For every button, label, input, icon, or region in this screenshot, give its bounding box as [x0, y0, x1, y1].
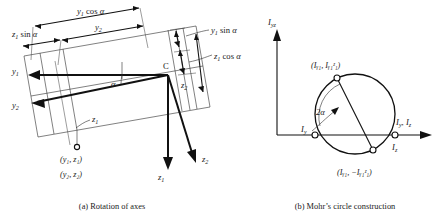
dim-label-z2: z2: [180, 80, 187, 91]
caption-panel-b: (b) Mohr’s circle construction: [295, 202, 396, 211]
mohr-diameter-line: [337, 78, 373, 150]
axis-label-y1: y1: [11, 66, 19, 77]
marker-bottom-point: [370, 147, 376, 153]
axis-label-z2: z2: [201, 154, 208, 165]
axis-label-z1: z1: [157, 172, 164, 183]
panel-rotation-of-axes: y1 cos α z1 sin α y2 y1 sin α z1 cos α z…: [0, 0, 443, 220]
dim-label-z1sin: z1 sin α: [11, 29, 38, 40]
point-label-yz1: (y₁, z₁): [60, 155, 82, 164]
marker-iy: [312, 132, 318, 138]
angle-label-2alpha: 2α: [316, 107, 325, 117]
arrowhead-y1: [28, 70, 40, 80]
intercept-label-iy: Iy: [300, 124, 307, 135]
panel-mohrs-circle: Iyz Iy, Iz Iy Iz 2α (Iᵧ₁, Iᵧ₁ᶻ₁) (Iᵧ₁, −…: [267, 17, 432, 211]
arrowhead-vertical-axis: [273, 29, 281, 41]
leader-z1: [76, 120, 90, 128]
axis-label-y2: y2: [11, 100, 19, 111]
angle-alpha-marker: [121, 62, 122, 84]
point-label-bottom: (Iᵧ₁, −Iᵧ₁ᶻ₁): [337, 168, 372, 177]
arrowhead-horizontal-axis: [420, 131, 432, 139]
dim-label-z1cos: z1 cos α: [213, 51, 241, 62]
marker-iz: [392, 132, 398, 138]
dim-label-z1: z1: [91, 114, 98, 125]
marker-top-point: [334, 75, 340, 81]
figure-root: y1 cos α z1 sin α y2 y1 sin α z1 cos α z…: [0, 0, 443, 220]
arrowhead-z2: [187, 149, 196, 163]
caption-panel-a: (a) Rotation of axes: [79, 202, 145, 211]
arrowhead-2alpha: [331, 107, 339, 115]
origin-label-c: C: [163, 61, 169, 71]
intercept-label-iz: Iz: [391, 142, 398, 153]
point-label-yz2: (y₂, z₂): [60, 170, 82, 179]
axis-label-iy-iz: Iy, Iz: [395, 117, 412, 128]
dimension-lines-right: [170, 28, 204, 92]
point-label-top: (Iᵧ₁, Iᵧ₁ᶻ₁): [311, 61, 341, 70]
dim-label-y2: y2: [94, 22, 102, 33]
angle-label-alpha: α: [111, 79, 116, 89]
arrowhead-y2: [31, 99, 45, 108]
axis-label-iyz: Iyz: [267, 17, 277, 28]
arrowhead-z1: [163, 157, 173, 170]
point-marker-yz: [74, 144, 79, 149]
dim-label-y1sin: y1 sin α: [210, 25, 237, 36]
dim-label-y1cos: y1 cos α: [76, 6, 105, 17]
